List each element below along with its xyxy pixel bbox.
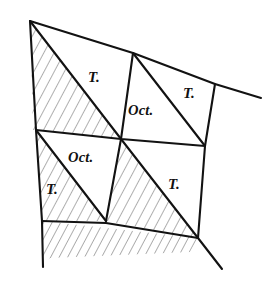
crystal-diagram: T. T. Oct. Oct. T. T. bbox=[0, 0, 267, 291]
crystal-figure: T. T. Oct. Oct. T. T. bbox=[0, 0, 267, 291]
label-oct-lower: Oct. bbox=[68, 149, 93, 165]
label-t-lower-left: T. bbox=[46, 181, 58, 197]
label-t-lower-right: T. bbox=[168, 176, 180, 192]
label-t-upper-right: T. bbox=[183, 85, 195, 101]
label-oct-upper: Oct. bbox=[128, 102, 153, 118]
label-t-upper-left: T. bbox=[88, 69, 100, 85]
